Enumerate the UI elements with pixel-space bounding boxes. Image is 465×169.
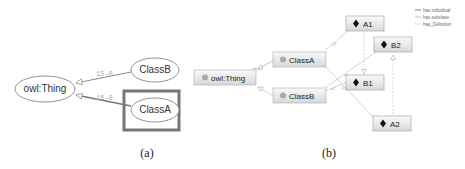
node-classa-b-label: ClassA [289, 56, 315, 65]
node-classa[interactable]: ClassA [124, 91, 179, 130]
node-individual-a1[interactable]: A1 [346, 16, 384, 31]
class-icon [280, 57, 286, 63]
class-icon [280, 93, 286, 99]
legend-has-definition: has_Definition [423, 22, 452, 27]
node-individual-b2[interactable]: B2 [374, 37, 412, 52]
node-b1-label: B1 [363, 79, 373, 88]
node-classa-label: ClassA [139, 104, 171, 115]
edge-a2-classa [325, 66, 377, 121]
node-owl-thing[interactable]: owl:Thing [15, 76, 75, 102]
legend-has-individual: has individual [423, 8, 450, 13]
panel-a: 15-0 16-0 owl:Thing ClassB ClassA (a) [15, 58, 179, 160]
legend: has individual has subclass has_Definiti… [415, 8, 452, 27]
edge-classa-subclass [258, 61, 273, 69]
node-a2-label: A2 [390, 120, 400, 129]
panel-b: owl:Thing ClassA ClassB A1 B2 [194, 8, 452, 161]
node-classb[interactable]: ClassB [131, 58, 179, 82]
legend-has-subclass: has subclass [423, 15, 450, 20]
node-a1-label: A1 [363, 20, 373, 29]
node-classa-b[interactable]: ClassA [273, 52, 326, 67]
node-owl-thing-b[interactable]: owl:Thing [194, 70, 256, 85]
node-b2-label: B2 [391, 41, 401, 50]
caption-b: (b) [322, 146, 336, 160]
node-owl-thing-label: owl:Thing [24, 83, 67, 94]
node-individual-b1[interactable]: B1 [346, 75, 384, 90]
diagram-canvas: 15-0 16-0 owl:Thing ClassB ClassA (a) [0, 0, 465, 169]
node-individual-a2[interactable]: A2 [373, 116, 411, 131]
edge-label-16-0: 16-0 [96, 94, 113, 102]
node-classb-b-label: ClassB [289, 92, 314, 101]
node-classb-label: ClassB [139, 64, 171, 75]
edge-classb-subclass [258, 87, 273, 96]
caption-a: (a) [140, 146, 153, 160]
edge-label-15-0: 15-0 [96, 70, 113, 78]
node-owl-thing-b-label: owl:Thing [211, 74, 245, 83]
node-classb-b[interactable]: ClassB [273, 88, 326, 103]
edge-a1-classa [325, 30, 349, 50]
edge-classa-to-owlthing-b [252, 60, 273, 69]
class-icon [202, 75, 208, 81]
